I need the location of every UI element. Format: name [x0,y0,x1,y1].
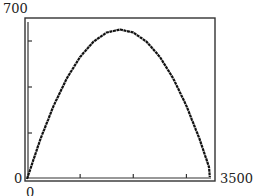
y-min-label: 0 [14,172,22,185]
chart [0,0,272,196]
x-min-label: 0 [26,186,34,196]
y-max-label: 700 [3,2,28,15]
x-max-label: 3500 [220,172,253,185]
plot-frame [25,18,215,181]
data-curve [27,30,210,180]
